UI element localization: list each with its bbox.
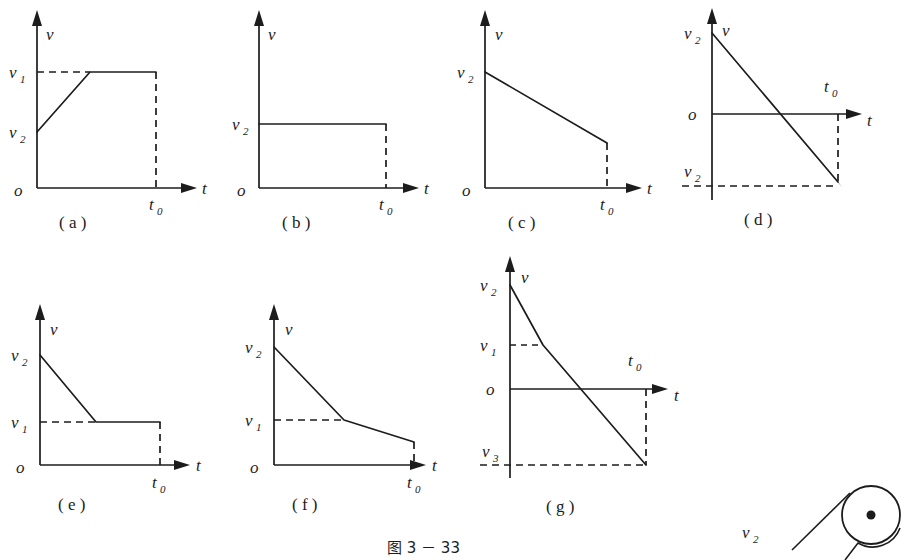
value-label-v3-g: v — [482, 442, 490, 461]
y-axis-arrow-icon — [505, 256, 515, 272]
figure-sheet: v t o v 1 v 2 t 0 ( a ) v t — [0, 0, 911, 560]
value-label-v1-a: v — [9, 63, 17, 82]
curve-f — [274, 347, 414, 442]
value-label-v2-b: v — [232, 115, 240, 134]
panel-caption-c: ( c ) — [508, 213, 535, 232]
value-label-v2-c: v — [457, 63, 465, 82]
tick-label-t0-a: t — [149, 195, 155, 214]
y-axis-arrow-icon — [254, 10, 264, 26]
tick-label-t0-e: t — [152, 473, 158, 492]
panel-a: v t o v 1 v 2 t 0 ( a ) — [0, 0, 240, 230]
value-sub-v2-b: 2 — [243, 125, 249, 137]
tick-sub-t0-g: 0 — [636, 361, 642, 373]
value-sub-v2-top-d: 2 — [695, 34, 701, 46]
value-sub-v2-bottom-d: 2 — [695, 172, 701, 184]
value-label-v1-g: v — [480, 336, 488, 355]
y-axis-f — [269, 304, 279, 465]
axis-label-t-d: t — [867, 111, 873, 130]
tick-sub-t0-e: 0 — [160, 483, 166, 495]
value-label-v2-g: v — [480, 276, 488, 295]
cord-upper-line — [792, 493, 850, 550]
value-sub-v1-f: 1 — [256, 421, 262, 433]
origin-label-d: o — [688, 105, 697, 124]
origin-label-e: o — [16, 458, 25, 477]
axis-label-v-c: v — [495, 25, 503, 44]
y-axis-c — [480, 10, 490, 188]
x-axis-arrow-icon — [403, 183, 419, 193]
corner-sub-v2: 2 — [753, 533, 759, 545]
x-axis-arrow-icon — [174, 460, 190, 470]
axis-label-t-f: t — [432, 456, 438, 475]
origin-label-g: o — [486, 380, 495, 399]
x-axis-f — [274, 460, 426, 470]
tick-label-t0-c: t — [600, 195, 606, 214]
value-sub-v2-g: 2 — [491, 286, 497, 298]
y-axis-g — [505, 256, 515, 478]
curve-d — [712, 33, 838, 182]
value-label-v2-top-d: v — [684, 24, 692, 43]
origin-label-b: o — [237, 181, 246, 200]
panel-caption-e: ( e ) — [58, 495, 85, 514]
y-axis-arrow-icon — [35, 304, 45, 320]
corner-label-v2: v — [742, 523, 750, 542]
pulley-hub-icon — [867, 511, 876, 520]
x-axis-arrow-icon — [626, 183, 642, 193]
y-axis-a — [32, 10, 42, 188]
axis-label-v-a: v — [46, 25, 54, 44]
y-axis-arrow-icon — [480, 10, 490, 26]
tick-label-t0-d: t — [824, 77, 830, 96]
panel-e: v t o v 2 v 1 t 0 ( e ) — [0, 290, 240, 520]
x-axis-e — [40, 460, 190, 470]
axis-label-v-g: v — [521, 268, 529, 287]
curve-a — [37, 72, 156, 132]
panel-caption-d: ( d ) — [744, 210, 772, 229]
origin-label-a: o — [14, 181, 23, 200]
tick-sub-t0-b: 0 — [387, 205, 393, 217]
y-axis-b — [254, 10, 264, 188]
value-label-v1-e: v — [11, 413, 19, 432]
tick-sub-t0-c: 0 — [608, 205, 614, 217]
value-label-v2-e: v — [11, 346, 19, 365]
value-label-v2-a: v — [9, 123, 17, 142]
axis-label-t-g: t — [674, 386, 680, 405]
axis-label-v-b: v — [268, 25, 276, 44]
axis-label-v-e: v — [50, 320, 58, 339]
value-sub-v2-f: 2 — [256, 348, 262, 360]
value-label-v2-bottom-d: v — [684, 162, 692, 181]
curve-c — [485, 72, 607, 143]
y-axis-arrow-icon — [32, 10, 42, 26]
x-axis-g — [510, 384, 668, 394]
x-axis-a — [37, 183, 197, 193]
value-sub-v2-e: 2 — [22, 356, 28, 368]
tick-sub-t0-a: 0 — [157, 205, 163, 217]
value-sub-v1-a: 1 — [20, 73, 26, 85]
axis-label-t-a: t — [202, 179, 208, 198]
panel-c: v t o v 2 t 0 ( c ) — [452, 0, 682, 230]
panel-g: v t o v 2 v 1 v 3 t 0 ( g ) — [460, 250, 720, 520]
panel-f: v t o v 2 v 1 t 0 ( f ) — [232, 290, 472, 520]
axis-label-v-d: v — [722, 21, 730, 40]
figure-caption: 图 3 － 33 — [387, 536, 460, 557]
origin-label-c: o — [462, 181, 471, 200]
tick-label-t0-g: t — [628, 351, 634, 370]
panel-caption-b: ( b ) — [282, 213, 310, 232]
tick-label-t0-f: t — [407, 473, 413, 492]
value-sub-v2-a: 2 — [20, 133, 26, 145]
x-axis-arrow-icon — [410, 460, 426, 470]
curve-arrow-icon-d — [829, 172, 842, 187]
corner-pulley-sketch: v 2 — [740, 480, 911, 560]
value-label-v2-f: v — [245, 338, 253, 357]
value-sub-v3-g: 3 — [492, 452, 499, 464]
value-sub-v1-g: 1 — [491, 346, 497, 358]
tick-sub-t0-f: 0 — [415, 483, 421, 495]
x-axis-c — [485, 183, 642, 193]
x-axis-arrow-icon — [652, 384, 668, 394]
y-axis-e — [35, 304, 45, 465]
y-axis-arrow-icon — [269, 304, 279, 320]
panel-caption-g: ( g ) — [546, 497, 574, 516]
panel-b: v t o v 2 t 0 ( b ) — [232, 0, 462, 230]
curve-g — [510, 285, 646, 465]
axis-label-t-e: t — [196, 456, 202, 475]
panel-d: v t o v 2 v 2 t 0 ( d ) — [660, 0, 911, 230]
curve-e — [40, 355, 160, 422]
